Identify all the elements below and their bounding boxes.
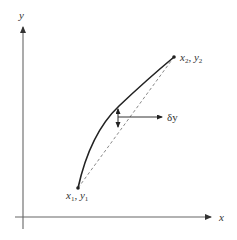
curve-deviation-diagram: y x δy x1, y1 x2, y2 (0, 0, 237, 240)
end-y-subscript: 2 (199, 57, 203, 65)
x-axis-label: x (218, 211, 224, 223)
x-axis: x (15, 211, 224, 223)
chord-dashed-line (78, 57, 174, 188)
start-y-subscript: 1 (85, 195, 89, 203)
y-axis-label: y (18, 9, 24, 21)
end-point-label: x2, y2 (179, 51, 203, 65)
y-axis: y (18, 9, 24, 229)
delta-y-label: δy (167, 111, 178, 123)
start-point-label: x1, y1 (65, 189, 89, 203)
end-point-marker (172, 55, 176, 59)
